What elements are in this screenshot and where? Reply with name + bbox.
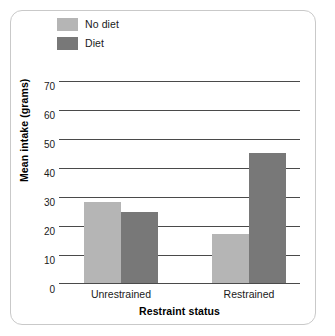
legend-item-diet: Diet (57, 35, 177, 52)
x-tick-label-unrestrained: Unrestrained (91, 288, 151, 300)
x-tick-label-restrained: Restrained (224, 288, 275, 300)
gridline (59, 110, 300, 111)
legend-label-no-diet: No diet (85, 18, 119, 31)
y-tick-label: 70 (44, 82, 55, 92)
y-tick-label: 0 (49, 285, 55, 295)
gridline (59, 139, 300, 140)
y-tick-label: 20 (44, 227, 55, 237)
legend-swatch-no-diet (57, 18, 78, 31)
bar-unrestrained-diet (121, 212, 158, 283)
bar-unrestrained-no-diet (84, 202, 121, 283)
legend-swatch-diet (57, 37, 78, 50)
plot-area: 010203040506070 UnrestrainedRestrained (59, 81, 300, 284)
y-tick-label: 40 (44, 169, 55, 179)
y-tick-label: 60 (44, 111, 55, 121)
bar-restrained-diet (249, 153, 286, 284)
chart-legend: No diet Diet (57, 16, 177, 54)
legend-label-diet: Diet (85, 37, 104, 50)
legend-item-no-diet: No diet (57, 16, 177, 33)
gridline (59, 81, 300, 82)
x-axis-title: Restraint status (59, 305, 300, 317)
y-tick-label: 50 (44, 140, 55, 150)
y-axis-title: Mean intake (grams) (18, 79, 30, 182)
x-axis-line (59, 283, 300, 284)
bar-restrained-no-diet (212, 234, 249, 283)
y-tick-label: 30 (44, 198, 55, 208)
y-tick-label: 10 (44, 256, 55, 266)
